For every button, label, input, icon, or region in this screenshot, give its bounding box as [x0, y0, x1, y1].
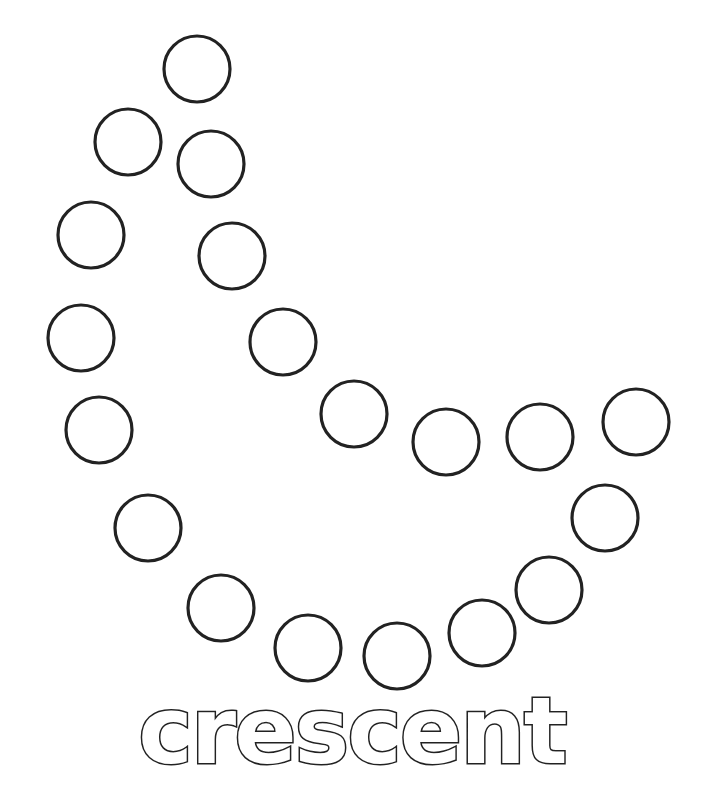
dot-circle-5 [199, 223, 265, 289]
dot-circle-10 [413, 409, 479, 475]
dot-circle-6 [48, 305, 114, 371]
dot-circles-group [48, 36, 669, 689]
dot-circle-1 [164, 36, 230, 102]
dot-circle-15 [188, 575, 254, 641]
dot-circle-4 [58, 202, 124, 268]
dot-circle-3 [178, 131, 244, 197]
dot-circle-12 [603, 389, 669, 455]
dot-circle-8 [66, 397, 132, 463]
dot-circle-16 [516, 557, 582, 623]
shape-name-label: crescent [138, 678, 565, 785]
dot-circle-19 [449, 600, 515, 666]
dot-circle-7 [250, 309, 316, 375]
dot-circle-17 [275, 615, 341, 681]
dot-circle-2 [95, 109, 161, 175]
dot-circle-11 [507, 404, 573, 470]
dot-circle-9 [321, 381, 387, 447]
dot-circle-14 [572, 485, 638, 551]
crescent-dot-worksheet: crescent [0, 0, 721, 811]
dot-circle-13 [115, 495, 181, 561]
